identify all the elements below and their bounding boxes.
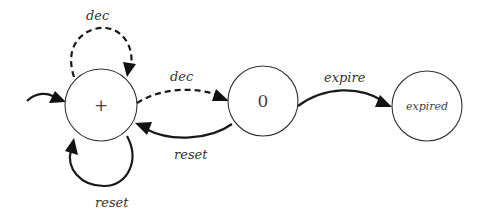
transition-expire-zero-to-expired: expire [298, 70, 392, 107]
state-label-zero: 0 [258, 91, 269, 111]
state-expired: expired [392, 71, 462, 141]
transition-label-reset: reset [174, 147, 208, 162]
state-plus: + [65, 69, 137, 141]
state-zero: 0 [228, 66, 298, 136]
transition-reset-zero-to-plus: reset [135, 122, 232, 162]
initial-arrow [27, 91, 66, 103]
transition-dec-plus-to-zero: dec [137, 69, 229, 103]
state-label-plus: + [94, 95, 108, 115]
transition-reset-self-loop: reset [65, 136, 132, 210]
transition-label-dec-self: dec [86, 8, 110, 23]
transition-label-dec: dec [170, 69, 194, 84]
transition-label-reset-self: reset [95, 195, 129, 210]
transition-label-expire: expire [324, 70, 366, 85]
state-diagram: dec reset dec reset expire + 0 expired [0, 0, 489, 221]
state-label-expired: expired [406, 100, 448, 113]
transition-dec-self-loop: dec [71, 8, 136, 77]
